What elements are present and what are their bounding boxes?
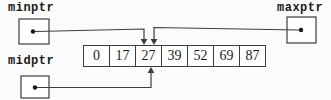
- pointer-array-diagram: minptr maxptr midptr 0172739526987: [0, 0, 331, 100]
- array-cell: 87: [239, 45, 266, 67]
- maxptr-arrow-line: [154, 28, 299, 41]
- array-row: 0172739526987: [83, 45, 265, 67]
- array-cell: 17: [109, 45, 136, 67]
- minptr-dot-icon: [31, 29, 35, 33]
- maxptr-dot-icon: [299, 28, 303, 32]
- midptr-label: midptr: [8, 54, 54, 68]
- array-cell: 69: [213, 45, 240, 67]
- midptr-arrowhead-icon: [148, 67, 155, 73]
- minptr-label: minptr: [8, 1, 54, 15]
- midptr-dot-icon: [33, 85, 37, 89]
- midptr-arrow-line: [37, 72, 151, 88]
- maxptr-label: maxptr: [277, 1, 323, 15]
- array-cell: 39: [161, 45, 188, 67]
- array-cell: 27: [135, 45, 162, 67]
- array-cell: 52: [187, 45, 214, 67]
- array-cell: 0: [83, 45, 110, 67]
- minptr-arrow-line: [35, 29, 144, 40]
